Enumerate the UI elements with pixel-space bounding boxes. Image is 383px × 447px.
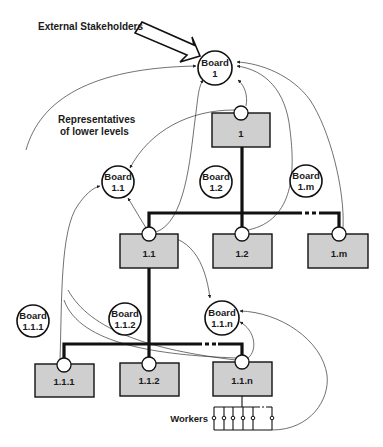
unit-1: 1 <box>212 106 270 147</box>
board-1-1-number: 1.1 <box>111 182 125 193</box>
unit-1-1: 1.1 <box>120 227 178 268</box>
unit-1-m-label: 1.m <box>331 248 347 259</box>
board-1-m-number: 1.m <box>298 181 314 192</box>
governance-diagram: External Stakeholders Representatives of… <box>0 0 383 447</box>
board-1: Board 1 <box>198 51 232 85</box>
external-stakeholders-arrow-icon <box>135 22 200 62</box>
board-1-1-n: Board 1.1.n <box>205 301 239 335</box>
board-1-2: Board 1.2 <box>200 166 232 198</box>
bus-level2-horizontal <box>64 344 198 360</box>
unit-1-label: 1 <box>238 128 244 139</box>
unit-1-1-n-label: 1.1.n <box>231 375 253 386</box>
board-1-1-1: Board 1.1.1 <box>17 305 49 337</box>
representatives-arc <box>26 66 196 150</box>
rep-curve-unit11-board11 <box>128 198 146 228</box>
unit-1-1-n-node-icon <box>235 355 249 369</box>
unit-1-2-node-icon <box>235 227 249 241</box>
board-1-1-1-number: 1.1.1 <box>22 321 44 332</box>
board-1-1-n-number: 1.1.n <box>211 318 233 329</box>
bus-level2-horizontal-right <box>218 344 242 357</box>
workers-label: Workers <box>170 413 208 424</box>
board-1-1-2: Board 1.1.2 <box>109 303 141 335</box>
unit-1-1-node-icon <box>142 227 156 241</box>
workers-group <box>212 396 274 430</box>
board-1-m-label: Board <box>292 170 320 181</box>
board-1-1-2-label: Board <box>111 308 139 319</box>
unit-1-1-label: 1.1 <box>142 248 156 259</box>
unit-1-m: 1.m <box>308 227 368 268</box>
unit-1-1-1-node-icon <box>57 358 71 372</box>
board-1-1-n-label: Board <box>208 307 236 318</box>
unit-1-m-node-icon <box>332 227 346 241</box>
board-1-2-label: Board <box>202 171 230 182</box>
board-1-1-2-number: 1.1.2 <box>114 319 135 330</box>
unit-1-2-label: 1.2 <box>235 248 248 259</box>
rep-curve-unit1-board1 <box>238 80 247 106</box>
board-1-number: 1 <box>212 68 218 79</box>
unit-1-1-2-label: 1.1.2 <box>138 375 159 386</box>
worker-node-icons <box>212 416 274 420</box>
unit-1-1-1: 1.1.1 <box>35 358 94 397</box>
unit-1-1-n: 1.1.n <box>213 355 272 396</box>
bus-level1-horizontal-right <box>321 213 339 228</box>
rep-curve-unit11-board1 <box>156 80 203 232</box>
board-1-label: Board <box>201 57 229 68</box>
representatives-label-line2: of lower levels <box>60 126 129 137</box>
board-1-1-1-label: Board <box>19 310 47 321</box>
board-1-1-label: Board <box>104 171 132 182</box>
unit-1-1-1-label: 1.1.1 <box>53 376 75 387</box>
representatives-label-line1: Representatives <box>58 114 136 125</box>
unit-1-2: 1.2 <box>213 227 272 268</box>
board-1-2-number: 1.2 <box>209 182 222 193</box>
unit-1-1-2-node-icon <box>142 357 156 371</box>
board-1-1: Board 1.1 <box>102 166 134 198</box>
external-stakeholders-label: External Stakeholders <box>38 21 143 32</box>
unit-1-node-icon <box>234 106 248 120</box>
rep-curve-unit111-board11 <box>60 186 100 360</box>
board-1-m: Board 1.m <box>290 165 322 197</box>
unit-1-1-2: 1.1.2 <box>120 357 179 396</box>
